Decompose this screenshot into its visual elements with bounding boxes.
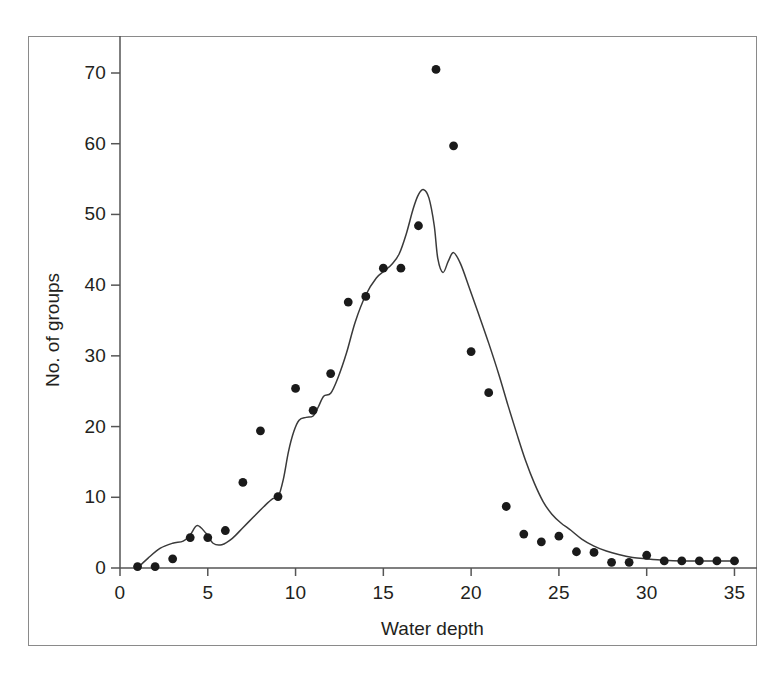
y-tick-label: 40 — [60, 274, 106, 296]
data-point — [186, 533, 195, 542]
data-point — [326, 369, 335, 378]
data-point — [203, 533, 212, 542]
x-tick-label: 30 — [636, 582, 658, 604]
data-point — [256, 426, 265, 435]
data-point — [467, 347, 476, 356]
x-tick-label: 35 — [724, 582, 746, 604]
data-point — [274, 492, 283, 501]
data-point — [555, 532, 564, 541]
data-point-group — [133, 65, 739, 571]
data-point — [730, 557, 739, 566]
data-point — [361, 292, 370, 301]
data-point — [379, 264, 388, 273]
data-point — [221, 526, 230, 535]
data-point — [414, 221, 423, 230]
data-point — [660, 557, 669, 566]
y-tick-label: 30 — [60, 345, 106, 367]
x-tick-label: 15 — [373, 582, 395, 604]
data-point — [344, 298, 353, 307]
y-tick-label: 60 — [60, 133, 106, 155]
x-tick-label: 5 — [202, 582, 213, 604]
data-point — [397, 264, 406, 273]
x-tick-label: 10 — [285, 582, 307, 604]
x-tick-label: 20 — [460, 582, 482, 604]
data-point — [677, 557, 686, 566]
x-axis-ticks — [120, 568, 734, 576]
data-point — [449, 141, 458, 150]
data-point — [484, 388, 493, 397]
data-point — [537, 537, 546, 546]
data-point — [238, 478, 247, 487]
x-tick-label: 0 — [115, 582, 126, 604]
y-axis-label: No. of groups — [42, 272, 64, 386]
data-point — [151, 562, 160, 571]
data-point — [713, 557, 722, 566]
y-tick-label: 50 — [60, 203, 106, 225]
data-point — [309, 406, 318, 415]
data-point — [133, 562, 142, 571]
data-point — [572, 547, 581, 556]
figure-container: 010203040506070 05101520253035 Water dep… — [0, 0, 782, 677]
chart-plot-area — [0, 0, 782, 677]
data-point — [625, 558, 634, 567]
y-tick-label: 0 — [60, 557, 106, 579]
data-point — [642, 551, 651, 560]
data-point — [519, 530, 528, 539]
axis-lines — [120, 36, 757, 568]
y-tick-label: 20 — [60, 416, 106, 438]
data-point — [432, 65, 441, 74]
y-axis-ticks — [111, 73, 120, 568]
x-axis-label: Water depth — [381, 618, 484, 640]
data-point — [695, 557, 704, 566]
y-tick-label: 10 — [60, 486, 106, 508]
data-point — [168, 554, 177, 563]
x-tick-label: 25 — [548, 582, 570, 604]
fitted-curve — [138, 190, 738, 568]
data-point — [607, 558, 616, 567]
data-point — [291, 384, 300, 393]
y-tick-label: 70 — [60, 62, 106, 84]
data-point — [590, 548, 599, 557]
data-point — [502, 502, 511, 511]
